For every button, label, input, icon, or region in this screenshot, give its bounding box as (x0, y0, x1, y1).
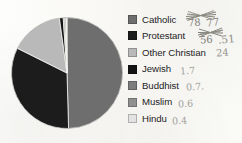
legend-item-muslim[interactable]: Muslim 0.6 (128, 94, 242, 111)
legend-label-catholic: Catholic (142, 15, 176, 25)
legend-swatch-protestant (128, 31, 137, 40)
annotation-other-christian: 24 (216, 47, 229, 59)
legend-label-muslim: Muslim (142, 97, 172, 107)
legend-item-jewish[interactable]: Jewish 1.7 (128, 61, 242, 78)
legend-item-protestant[interactable]: Protestant 56 .51 (128, 28, 242, 45)
legend-swatch-catholic (128, 15, 137, 24)
chart-page: Catholic 78 77 Protestant 56 (0, 0, 242, 143)
legend-swatch-other-christian (128, 48, 137, 57)
legend-swatch-hindu (128, 114, 137, 123)
legend-swatch-jewish (128, 65, 137, 74)
legend-item-hindu[interactable]: Hindu 0.4 (128, 111, 242, 128)
annotation-hindu: 0.4 (172, 114, 188, 126)
pie-slice-group (11, 17, 122, 128)
legend-swatch-buddhist (128, 81, 137, 90)
legend-item-buddhist[interactable]: Buddhist 0.7. (128, 77, 242, 94)
chart-legend: Catholic 78 77 Protestant 56 (128, 11, 242, 127)
legend-label-other-christian: Other Christian (142, 48, 206, 58)
legend-label-hindu: Hindu (142, 114, 167, 124)
annotation-muslim: 0.6 (178, 98, 194, 110)
pie-chart-svg (6, 14, 126, 134)
legend-swatch-muslim (128, 98, 137, 107)
legend-label-jewish: Jewish (142, 64, 171, 74)
legend-item-other-christian[interactable]: Other Christian 24 (128, 44, 242, 61)
legend-label-protestant: Protestant (142, 31, 185, 41)
annotation-jewish: 1.7 (180, 64, 196, 76)
annotation-buddhist: 0.7. (186, 81, 205, 93)
legend-item-catholic[interactable]: Catholic 78 77 (128, 11, 242, 28)
legend-label-buddhist: Buddhist (142, 81, 179, 91)
pie-chart (6, 14, 126, 134)
pie-slice-catholic[interactable] (67, 17, 123, 128)
